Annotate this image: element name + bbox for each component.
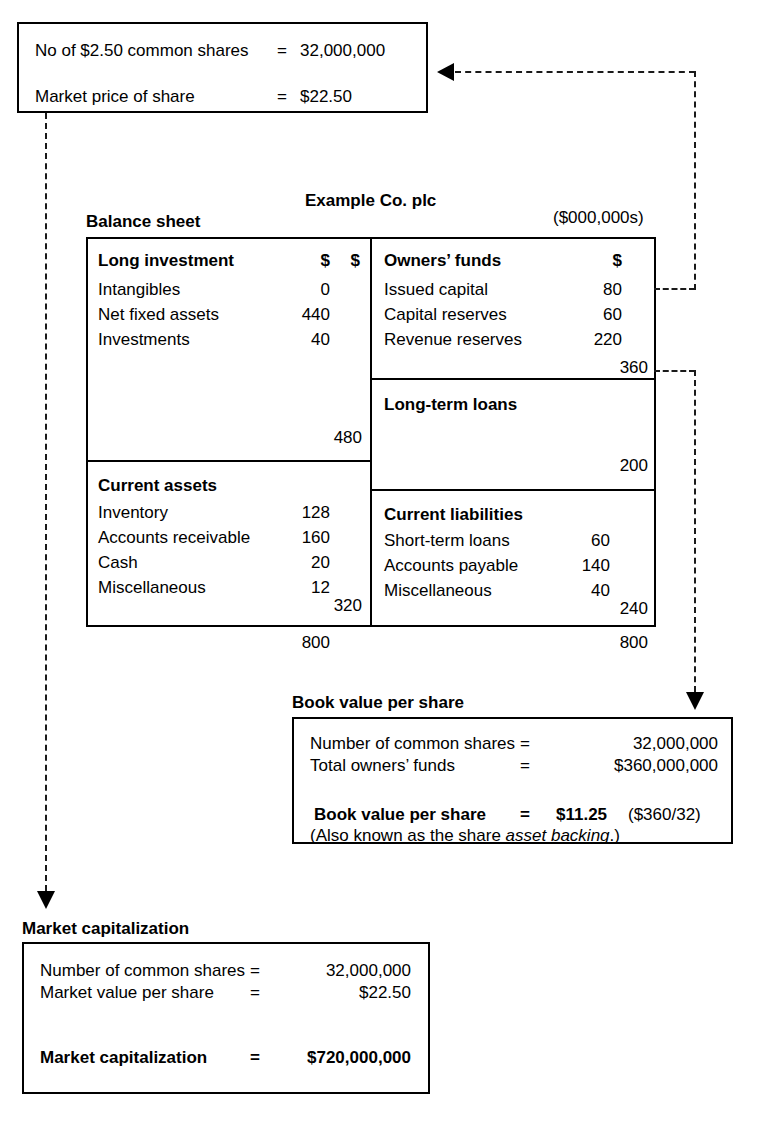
market-cap-result-value: $720,000,000 [256, 1049, 411, 1066]
arrow-down-icon-to-book-value [686, 692, 704, 710]
book-value-footnote-post: .) [610, 826, 620, 845]
market-cap-result-label: Market capitalization [40, 1049, 207, 1066]
owners-funds-row-1-value: 60 [560, 306, 622, 323]
market-capitalization-title: Market capitalization [22, 920, 189, 937]
long-investment-row-2-label: Investments [98, 331, 190, 348]
company-title: Example Co. plc [305, 192, 436, 209]
market-cap-row-1-value: $22.50 [256, 984, 411, 1001]
book-value-footnote-pre: (Also known as the share [310, 826, 506, 845]
current-assets-row-1-value: 160 [268, 529, 330, 546]
arrow-down-icon-to-market-cap [37, 891, 55, 909]
long-investment-subtotal: 480 [300, 429, 362, 446]
owners-funds-row-0-label: Issued capital [384, 281, 488, 298]
market-cap-row-0-value: 32,000,000 [256, 962, 411, 979]
long-investment-col-head-2: $ [298, 252, 360, 269]
connector-book-value-segment-v [694, 370, 696, 692]
market-cap-row-1-label: Market value per share [40, 984, 214, 1001]
book-value-row-1-value: $360,000,000 [556, 757, 718, 774]
book-value-result-value: $11.25 [556, 806, 607, 823]
current-assets-row-0-label: Inventory [98, 504, 168, 521]
owners-funds-col-head: $ [560, 252, 622, 269]
owners-funds-row-2-value: 220 [560, 331, 622, 348]
book-value-result-label: Book value per share [314, 806, 486, 823]
assets-divider [88, 460, 370, 462]
owners-funds-heading: Owners’ funds [384, 252, 501, 269]
current-liabilities-row-2-value: 40 [548, 582, 610, 599]
book-value-title: Book value per share [292, 694, 464, 711]
current-liabilities-row-0-value: 60 [548, 532, 610, 549]
long-investment-row-0-value: 0 [268, 281, 330, 298]
owners-funds-row-1-label: Capital reserves [384, 306, 507, 323]
connector-owners-funds-segment-v [694, 71, 696, 290]
connector-book-value-segment-h [654, 370, 695, 372]
book-value-row-0-equals: = [520, 735, 530, 752]
owners-funds-row-2-label: Revenue reserves [384, 331, 522, 348]
share-info-row-0-label: No of $2.50 common shares [35, 42, 249, 59]
current-assets-row-0-value: 128 [268, 504, 330, 521]
share-info-row-1-equals: = [277, 88, 287, 105]
market-cap-row-0-label: Number of common shares [40, 962, 245, 979]
long-investment-row-1-label: Net fixed assets [98, 306, 219, 323]
long-term-loans-subtotal: 200 [586, 457, 648, 474]
owners-funds-row-0-value: 80 [560, 281, 622, 298]
current-assets-subtotal: 320 [300, 597, 362, 614]
book-value-result-equals: = [520, 806, 530, 823]
book-value-result-note: ($360/32) [628, 806, 701, 823]
book-value-footnote: (Also known as the share asset backing.) [310, 827, 620, 844]
current-liabilities-heading: Current liabilities [384, 506, 523, 523]
owners-funds-subtotal: 360 [586, 359, 648, 376]
balance-sheet-units: ($000,000s) [553, 209, 644, 226]
book-value-row-0-value: 32,000,000 [556, 735, 718, 752]
long-investment-row-0-label: Intangibles [98, 281, 180, 298]
assets-total: 800 [268, 634, 330, 651]
book-value-footnote-emphasis: asset backing [506, 826, 610, 845]
current-assets-heading: Current assets [98, 477, 217, 494]
balance-sheet-center-divider [370, 239, 372, 625]
current-liabilities-row-0-label: Short-term loans [384, 532, 510, 549]
current-assets-row-2-value: 20 [268, 554, 330, 571]
share-info-row-0-equals: = [277, 42, 287, 59]
current-liabilities-subtotal: 240 [586, 600, 648, 617]
long-investment-row-2-value: 40 [268, 331, 330, 348]
diagram-page: No of $2.50 common shares = 32,000,000 M… [0, 0, 763, 1122]
book-value-row-1-equals: = [520, 757, 530, 774]
current-liabilities-row-1-label: Accounts payable [384, 557, 518, 574]
connector-owners-funds-segment-h1 [654, 288, 695, 290]
current-liabilities-row-1-value: 140 [548, 557, 610, 574]
connector-owners-funds-segment-h2 [455, 71, 695, 73]
long-investment-heading: Long investment [98, 252, 234, 269]
current-assets-row-1-label: Accounts receivable [98, 529, 250, 546]
current-assets-row-3-label: Miscellaneous [98, 579, 206, 596]
arrow-left-icon-to-share-info [437, 63, 454, 81]
current-assets-row-3-value: 12 [268, 579, 330, 596]
long-term-loans-divider [372, 489, 654, 491]
current-assets-row-2-label: Cash [98, 554, 138, 571]
long-investment-row-1-value: 440 [268, 306, 330, 323]
share-info-row-0-value: 32,000,000 [300, 42, 385, 59]
long-term-loans-heading: Long-term loans [384, 396, 517, 413]
share-info-row-1-value: $22.50 [300, 88, 352, 105]
owners-funds-divider [372, 378, 654, 380]
book-value-row-1-label: Total owners’ funds [310, 757, 455, 774]
share-info-row-1-label: Market price of share [35, 88, 195, 105]
book-value-row-0-label: Number of common shares [310, 735, 515, 752]
balance-sheet-title: Balance sheet [86, 213, 200, 230]
current-liabilities-row-2-label: Miscellaneous [384, 582, 492, 599]
liabilities-total: 800 [586, 634, 648, 651]
connector-market-cap-segment-v [45, 113, 47, 891]
